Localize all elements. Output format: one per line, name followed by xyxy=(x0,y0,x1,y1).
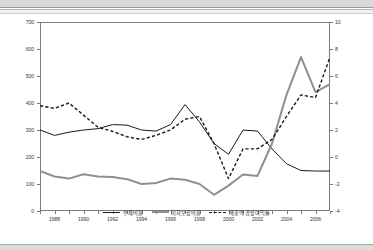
y-axis-tick xyxy=(37,130,40,131)
y-axis-tick xyxy=(37,184,40,185)
y2-axis-label: 4 xyxy=(335,100,355,106)
top-banner-bar xyxy=(0,0,373,8)
bottom-banner-bar xyxy=(0,244,373,250)
y2-axis-tick xyxy=(330,184,333,185)
series-line xyxy=(40,57,330,195)
legend-item-label: 매출액 경상이익률 xyxy=(229,209,270,216)
y2-axis-label: 8 xyxy=(335,46,355,52)
legend-item-label: 이자보상비율 xyxy=(171,209,200,216)
legend-key-icon xyxy=(152,211,169,213)
y-axis-tick xyxy=(37,49,40,50)
y-axis-tick xyxy=(37,76,40,77)
legend-key-icon xyxy=(103,212,120,213)
y-axis-label: 100 xyxy=(12,181,34,187)
y-axis-label: 700 xyxy=(12,19,34,25)
y2-axis-label: 10 xyxy=(335,19,355,25)
y2-axis-label: 0 xyxy=(335,154,355,160)
y-axis-label: 200 xyxy=(12,154,34,160)
y-axis-tick xyxy=(37,157,40,158)
legend-item-label: 부채비율 xyxy=(123,209,143,216)
legend-item[interactable]: 매출액 경상이익률 xyxy=(209,209,269,216)
legend-item[interactable]: 부채비율 xyxy=(103,209,142,216)
y2-axis-tick xyxy=(330,103,333,104)
y-axis-label: 300 xyxy=(12,127,34,133)
y2-axis-tick xyxy=(330,130,333,131)
y2-axis-label: 2 xyxy=(335,127,355,133)
series-line xyxy=(40,57,330,179)
y2-axis-tick xyxy=(330,49,333,50)
y-axis-label: 400 xyxy=(12,100,34,106)
y-axis-tick xyxy=(37,103,40,104)
chart-legend: 부채비율이자보상비율매출액 경상이익률 xyxy=(0,205,373,219)
y-axis-tick xyxy=(37,22,40,23)
y-axis-label: 500 xyxy=(12,73,34,79)
y2-axis-label: -2 xyxy=(335,181,355,187)
y2-axis-tick xyxy=(330,157,333,158)
y2-axis-tick xyxy=(330,76,333,77)
y2-axis-tick xyxy=(330,22,333,23)
chart-series-layer xyxy=(40,22,330,211)
legend-key-icon xyxy=(209,212,226,213)
legend-item[interactable]: 이자보상비율 xyxy=(152,209,201,216)
y-axis-label: 600 xyxy=(12,46,34,52)
y2-axis-label: 6 xyxy=(335,73,355,79)
screenshot-root: 0100200300400500600700-4-202468101988199… xyxy=(0,0,373,250)
